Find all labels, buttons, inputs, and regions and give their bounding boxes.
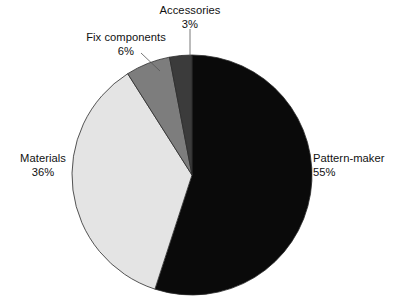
pie-slices bbox=[72, 55, 312, 295]
slice-label-fix-components-name: Fix components bbox=[86, 31, 166, 43]
slice-label-materials: Materials 36% bbox=[20, 152, 66, 179]
slice-label-pattern-maker-name: Pattern-maker bbox=[313, 152, 385, 164]
slice-label-pattern-maker: Pattern-maker 55% bbox=[313, 152, 385, 179]
slice-label-materials-value: 36% bbox=[20, 166, 66, 180]
slice-label-accessories: Accessories 3% bbox=[160, 4, 221, 31]
slice-label-materials-name: Materials bbox=[20, 152, 66, 164]
slice-label-accessories-name: Accessories bbox=[160, 4, 221, 16]
pie-chart: Accessories 3% Fix components 6% Materia… bbox=[0, 0, 411, 308]
slice-label-pattern-maker-value: 55% bbox=[313, 166, 385, 180]
slice-label-accessories-value: 3% bbox=[160, 18, 221, 32]
slice-label-fix-components-value: 6% bbox=[86, 45, 166, 59]
slice-label-fix-components: Fix components 6% bbox=[86, 31, 166, 58]
